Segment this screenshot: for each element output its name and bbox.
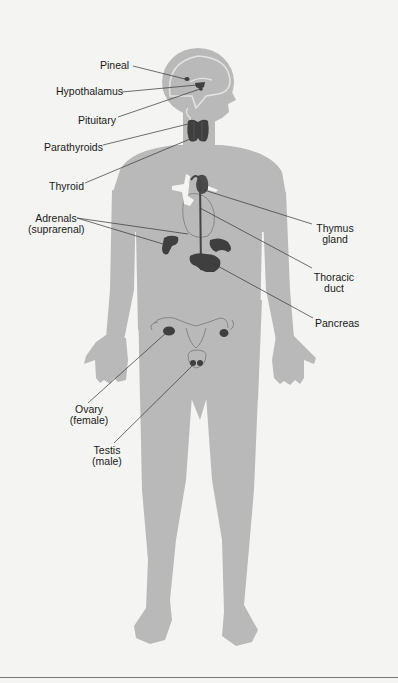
label-testis: Testis (male) — [84, 445, 130, 467]
pineal-gland — [184, 77, 189, 81]
right-ovary — [220, 329, 229, 337]
label-testis-line2: (male) — [84, 456, 130, 467]
label-adrenals-line2: (suprarenal) — [28, 224, 84, 235]
left-leg — [134, 395, 192, 644]
endocrine-diagram: Pineal Hypothalamus Pituitary Parathyroi… — [0, 0, 398, 683]
bottom-divider — [0, 677, 398, 678]
right-hand — [272, 336, 316, 385]
left-testis — [190, 360, 196, 366]
label-ovary-line2: (female) — [66, 415, 112, 426]
right-arm — [262, 190, 294, 340]
label-hypothalamus: Hypothalamus — [56, 86, 123, 97]
label-thyroid: Thyroid — [49, 181, 84, 192]
right-leg — [206, 395, 258, 646]
right-testis — [197, 360, 203, 366]
label-parathyroids: Parathyroids — [44, 142, 103, 153]
label-ovary: Ovary (female) — [66, 404, 112, 426]
left-arm — [106, 190, 136, 340]
label-adrenals: Adrenals (suprarenal) — [28, 213, 84, 235]
label-thoracic-line2: duct — [308, 283, 360, 294]
label-pituitary: Pituitary — [78, 115, 116, 126]
label-pancreas: Pancreas — [315, 318, 359, 329]
label-thymus-line2: gland — [310, 234, 360, 245]
label-pineal: Pineal — [100, 60, 129, 71]
label-thymus: Thymus gland — [310, 223, 360, 245]
body-figure — [0, 0, 398, 683]
left-hand — [84, 335, 128, 384]
label-thoracic-duct: Thoracic duct — [308, 272, 360, 294]
leader-parathyroids — [103, 124, 188, 145]
